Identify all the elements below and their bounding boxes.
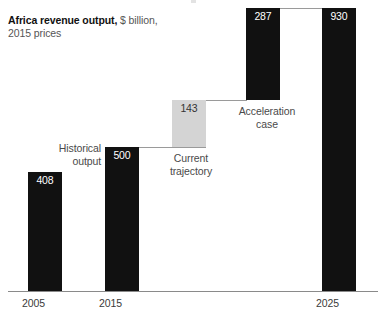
annotation-current-line2: trajectory [170,165,212,177]
bar-value-930: 930 [322,10,356,22]
bar-2005-408[interactable]: 408 [28,172,62,291]
connector-stub-acceleration-base [205,100,246,101]
annotation-historical-output: Historical output [23,142,101,168]
annotation-current-trajectory: Current trajectory [145,152,237,178]
connector-line-287-to-930 [279,8,323,9]
connector-line-500-to-143 [138,147,206,148]
bar-value-143: 143 [172,102,206,114]
bar-2025-930[interactable]: 930 [322,8,356,291]
annotation-acceleration-line2: case [256,118,278,130]
x-axis-line [8,291,378,292]
chart-container: Africa revenue output, $ billion, 2015 p… [0,0,386,319]
annotation-current-line1: Current [174,152,208,164]
x-tick-2005: 2005 [22,297,45,310]
bar-value-500: 500 [105,149,139,161]
bar-acceleration-case-287[interactable]: 287 [246,8,280,100]
x-tick-2025: 2025 [316,297,339,310]
annotation-historical-line2: output [72,155,101,167]
plot-area: 408 500 143 287 930 Historical output Cu… [0,0,386,319]
bar-value-287: 287 [246,10,280,22]
bar-value-408: 408 [28,174,62,186]
bar-current-trajectory-143[interactable]: 143 [172,100,206,147]
x-tick-2015: 2015 [99,297,122,310]
annotation-acceleration-case: Acceleration case [219,105,315,131]
annotation-acceleration-line1: Acceleration [239,105,296,117]
bar-2015-500[interactable]: 500 [105,147,139,291]
annotation-historical-line1: Historical [59,142,101,154]
